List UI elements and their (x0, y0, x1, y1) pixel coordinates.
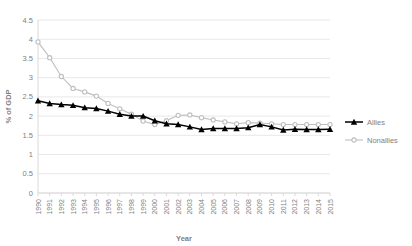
data-point (106, 101, 110, 105)
x-axis-title: Year (176, 234, 192, 243)
y-tick-label: 4.5 (23, 16, 33, 25)
y-tick-label: 3.5 (23, 54, 33, 63)
y-tick-label: 0.5 (23, 169, 33, 178)
y-tick-label: 0 (29, 189, 33, 198)
x-tick-label: 1993 (70, 199, 77, 215)
data-point (83, 90, 87, 94)
data-point (141, 119, 145, 123)
data-point (94, 94, 98, 98)
x-tick-label: 2015 (327, 199, 334, 215)
legend-item-allies[interactable]: Allies (345, 118, 385, 127)
x-tick-label: 1996 (105, 199, 112, 215)
data-point (118, 107, 122, 111)
x-tick-label: 2003 (186, 199, 193, 215)
data-point (223, 120, 227, 124)
x-tick-label: 2010 (268, 199, 275, 215)
y-tick-label: 1 (29, 150, 33, 159)
data-point (59, 74, 63, 78)
x-tick-label: 2004 (198, 199, 205, 215)
x-tick-label: 2009 (256, 199, 263, 215)
x-tick-label: 2007 (233, 199, 240, 215)
data-point (281, 122, 285, 126)
series-line (38, 42, 330, 125)
x-tick-label: 2013 (303, 199, 310, 215)
x-tick-label: 1991 (46, 199, 53, 215)
data-point (211, 118, 215, 122)
data-point (48, 56, 52, 60)
x-tick-label: 1994 (81, 199, 88, 215)
chart-container: 00.511.522.533.544.519901991199219931994… (0, 0, 412, 246)
data-point (199, 116, 203, 120)
y-axis-title: % of GDP (4, 89, 13, 123)
x-tick-label: 1999 (140, 199, 147, 215)
data-point (36, 40, 40, 44)
x-tick-label: 2011 (280, 199, 287, 214)
x-tick-label: 1995 (93, 199, 100, 215)
line-chart: 00.511.522.533.544.519901991199219931994… (0, 0, 412, 246)
y-tick-label: 2 (29, 112, 33, 121)
x-tick-label: 2001 (163, 199, 170, 215)
data-point (188, 113, 192, 117)
x-tick-label: 2006 (221, 199, 228, 215)
y-tick-label: 1.5 (23, 131, 33, 140)
legend-marker (352, 138, 356, 142)
data-point (71, 86, 75, 90)
data-point (176, 113, 180, 117)
legend-item-nonallies[interactable]: Nonallies (345, 136, 398, 145)
y-tick-label: 3 (29, 73, 33, 82)
y-tick-label: 2.5 (23, 92, 33, 101)
x-tick-label: 2002 (175, 199, 182, 215)
data-point (305, 122, 309, 126)
x-tick-label: 2014 (315, 199, 322, 215)
y-tick-label: 4 (29, 35, 33, 44)
series-nonallies (36, 40, 332, 127)
x-tick-label: 2000 (151, 199, 158, 215)
x-tick-label: 1998 (128, 199, 135, 215)
data-point (246, 121, 250, 125)
x-tick-label: 2005 (210, 199, 217, 215)
legend-label: Nonallies (367, 136, 398, 145)
x-tick-label: 1992 (58, 199, 65, 215)
x-tick-label: 1990 (35, 199, 42, 215)
x-tick-label: 1997 (116, 199, 123, 215)
x-tick-label: 2012 (291, 199, 298, 215)
x-tick-label: 2008 (245, 199, 252, 215)
data-point (316, 122, 320, 126)
legend-label: Allies (367, 118, 385, 127)
